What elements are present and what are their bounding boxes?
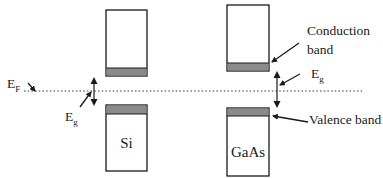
gaas-valence-band-edge: [228, 109, 269, 116]
fermi-label-sub: F: [15, 84, 20, 94]
gaas-conduction-band-edge: [228, 63, 269, 70]
valence-band-label: Valence band: [309, 113, 381, 127]
eg-si-label-sub: g: [73, 117, 78, 127]
conduction-band-label-line1: Conduction: [307, 24, 370, 38]
valence-band-pointer-arrow-icon: [273, 116, 308, 122]
eg-gaas-pointer-arrow-icon: [280, 74, 300, 85]
gaas-conduction-band: [227, 5, 269, 71]
eg-gaas-label: Eg: [311, 67, 324, 81]
si-conduction-band: [106, 10, 147, 76]
fermi-pointer-arrow-icon: [28, 83, 35, 91]
gaas-material-label: GaAs: [227, 144, 269, 161]
eg-gaas-label-main: E: [311, 66, 319, 81]
conduction-band-label-line2: band: [307, 43, 333, 57]
fermi-level-label: EF: [7, 77, 20, 91]
gaas-valence-band: [227, 108, 269, 176]
eg-gaas-label-sub: g: [319, 74, 324, 84]
si-valence-band-edge: [107, 106, 147, 114]
eg-si-pointer-arrow-icon: [80, 92, 91, 107]
si-material-label: Si: [106, 135, 147, 152]
eg-si-label-main: E: [65, 109, 73, 124]
eg-si-label: Eg: [65, 110, 78, 124]
fermi-label-main: E: [7, 76, 15, 91]
gaas-bandgap-arrow-icon: [274, 71, 281, 108]
conduction-band-pointer-arrow-icon: [272, 43, 299, 62]
si-conduction-band-edge: [107, 68, 147, 75]
